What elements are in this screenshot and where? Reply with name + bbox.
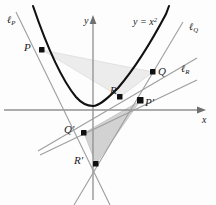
tangent-label-q-subscript: Q: [193, 26, 198, 33]
point-label-r-prime: R': [74, 155, 83, 166]
point-marker-q: [150, 69, 156, 75]
triangle-pqr: [42, 50, 153, 97]
geometry-diagram: [0, 0, 216, 205]
tangent-line-at-q: [74, 22, 183, 205]
point-marker-q-prime: [81, 130, 87, 136]
point-label-q: Q: [158, 66, 166, 77]
x-axis-arrowhead: [197, 107, 206, 114]
curve-equation-label: y = x2: [133, 17, 157, 27]
point-marker-p-prime: [137, 97, 144, 104]
tangent-label-p-subscript: P: [11, 19, 15, 26]
point-label-q-prime: Q': [64, 124, 74, 135]
tangent-label-r-subscript: R: [185, 68, 189, 75]
tangent-lines: [16, 12, 197, 205]
y-axis-label: y: [84, 16, 88, 26]
tangent-label-p: ℓP: [7, 15, 15, 27]
tangent-label-r: ℓR: [181, 64, 189, 76]
figure-canvas: y x y = x2 ℓP ℓQ ℓR P Q R P' Q' R': [0, 0, 216, 205]
tangent-label-q: ℓQ: [189, 22, 198, 34]
axis-group: [4, 15, 206, 200]
point-label-r: R: [110, 85, 117, 96]
point-marker-p: [39, 47, 45, 53]
curve-equation-exponent: 2: [154, 16, 157, 23]
point-label-p-prime: P': [145, 97, 154, 108]
point-label-p: P: [24, 42, 31, 53]
x-axis-label: x: [202, 115, 206, 125]
point-marker-r: [117, 94, 123, 100]
point-marker-r-prime: [93, 161, 99, 167]
y-axis-arrowhead: [90, 15, 97, 24]
curve-equation-text: y = x: [133, 16, 154, 27]
